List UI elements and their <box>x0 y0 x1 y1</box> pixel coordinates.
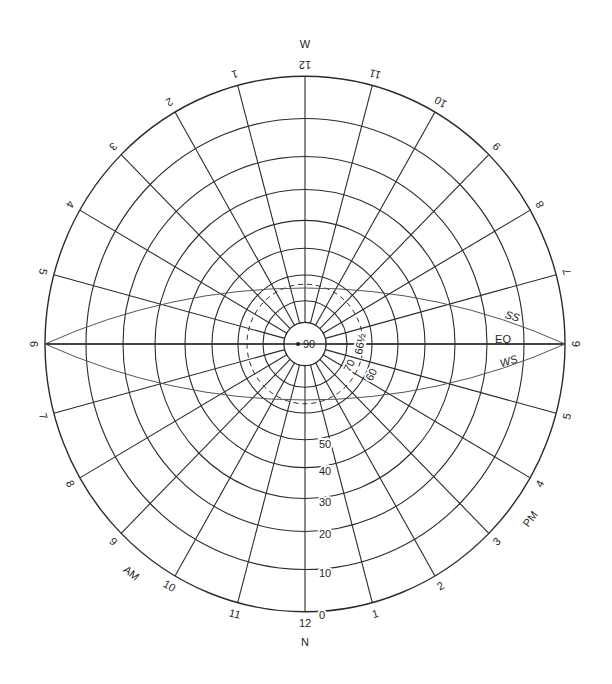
hour-line <box>175 112 295 325</box>
hour-label: 3 <box>490 535 503 548</box>
hour-label: 12 <box>299 617 311 629</box>
altitude-label-20: 20 <box>319 528 331 540</box>
hour-label: 9 <box>490 140 503 153</box>
hour-label: 5 <box>560 412 573 421</box>
altitude-label-40: 40 <box>319 465 331 477</box>
hour-label: 2 <box>164 96 175 109</box>
hour-line <box>320 155 489 329</box>
zenith-dot <box>296 342 300 346</box>
altitude-label-70: 70 <box>341 357 357 373</box>
hour-label: 5 <box>37 267 50 276</box>
hour-line <box>316 112 436 325</box>
hour-line <box>80 355 287 478</box>
hour-label: 7 <box>560 267 573 276</box>
altitude-label-30: 30 <box>319 496 331 508</box>
hour-label: 6 <box>570 341 582 347</box>
hour-line <box>121 155 290 329</box>
sun-path-label-ss: SS <box>504 308 522 324</box>
compass-top-label: W <box>300 38 311 50</box>
hour-line <box>323 355 530 478</box>
hour-label: 4 <box>533 478 546 489</box>
compass-north-label: N <box>301 636 309 648</box>
hour-label: 8 <box>533 199 546 210</box>
altitude-label-66½: 66½ <box>352 332 368 355</box>
altitude-label-0: 0 <box>319 609 325 621</box>
hour-line <box>316 363 436 576</box>
hour-label: 1 <box>371 607 380 620</box>
period-label-am: AM <box>121 563 141 583</box>
hour-label: 10 <box>161 577 178 594</box>
zenith-label: 90 <box>303 338 315 350</box>
sun-path-label-eq: EQ <box>495 333 511 345</box>
hour-line <box>175 363 295 576</box>
hour-label: 4 <box>64 199 77 210</box>
hour-label: 11 <box>228 606 242 621</box>
hour-label: 9 <box>107 535 120 548</box>
hour-label: 7 <box>37 412 50 421</box>
hour-line <box>121 359 290 533</box>
hour-line <box>320 359 489 533</box>
hour-label: 10 <box>432 94 449 111</box>
hour-line <box>80 210 287 333</box>
hour-label: 3 <box>107 140 120 153</box>
hour-label: 11 <box>368 67 382 82</box>
hour-label: 12 <box>299 59 311 71</box>
sun-path-diagram: SSEQWS121234567891011121234567891011AMPM… <box>0 0 612 684</box>
hour-line <box>323 210 530 333</box>
hour-label: 2 <box>435 579 446 592</box>
sun-path-label-ws: WS <box>498 352 519 369</box>
hour-label: 8 <box>64 478 77 489</box>
period-label-pm: PM <box>520 509 540 529</box>
altitude-label-50: 50 <box>319 438 331 450</box>
altitude-label-10: 10 <box>319 567 331 579</box>
hour-label: 1 <box>230 68 239 81</box>
hour-label: 6 <box>28 341 40 347</box>
